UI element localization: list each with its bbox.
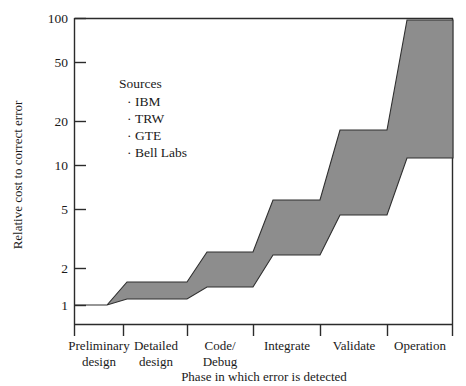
legend-item-gte: GTE <box>135 128 161 143</box>
y-tick-label-1: 1 <box>61 298 68 313</box>
x-axis-title: Phase in which error is detected <box>181 369 347 384</box>
y-tick-label-100: 100 <box>48 11 69 26</box>
x-label-operation: Operation <box>394 338 446 353</box>
x-label-detailed-design-line1: Detailed <box>134 338 179 353</box>
x-label-integrate: Integrate <box>264 338 310 353</box>
legend-item-ibm: IBM <box>135 94 161 109</box>
cost-to-correct-error-chart: 100 50 20 10 5 2 1 Preliminary design De… <box>0 0 466 386</box>
legend-bullet-trw: · <box>127 111 132 126</box>
legend-bullet-gte: · <box>127 128 132 143</box>
y-tick-label-2: 2 <box>61 261 68 276</box>
x-label-preliminary-design-line2: design <box>82 354 116 369</box>
x-label-validate: Validate <box>333 338 376 353</box>
y-tick-label-50: 50 <box>55 55 69 70</box>
legend-heading: Sources <box>119 76 162 91</box>
legend-bullet-ibm: · <box>127 94 132 109</box>
y-tick-label-20: 20 <box>55 114 69 129</box>
x-label-detailed-design-line2: design <box>139 354 173 369</box>
x-label-preliminary-design-line1: Preliminary <box>68 338 130 353</box>
y-tick-label-10: 10 <box>55 158 69 173</box>
chart-svg: 100 50 20 10 5 2 1 Preliminary design De… <box>0 0 466 386</box>
x-label-code-debug-line1: Code/ <box>204 338 235 353</box>
y-axis-title: Relative cost to correct error <box>10 100 25 249</box>
legend-bullet-bell-labs: · <box>127 145 132 160</box>
legend-item-trw: TRW <box>135 111 165 126</box>
legend-item-bell-labs: Bell Labs <box>135 145 187 160</box>
chart-background <box>0 0 466 386</box>
y-tick-label-5: 5 <box>61 202 68 217</box>
x-label-code-debug-line2: Debug <box>203 354 238 369</box>
